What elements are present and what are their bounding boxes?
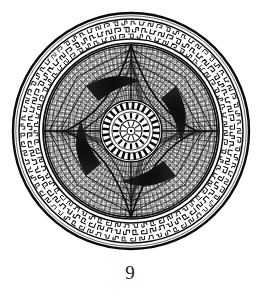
figure-root: Circular mosaic medallion Antiquarian en… (0, 0, 260, 298)
central-rosette (100, 100, 162, 162)
figure-caption: 9 (0, 262, 260, 284)
medallion-illustration: Circular mosaic medallion Antiquarian en… (0, 0, 260, 298)
rosette-core-dot (130, 130, 133, 133)
